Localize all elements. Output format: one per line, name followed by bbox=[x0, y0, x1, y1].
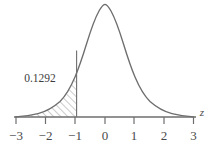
area-value-label: 0.1292 bbox=[24, 72, 56, 84]
normal-density-curve bbox=[16, 4, 194, 117]
x-tick-label: 3 bbox=[190, 128, 197, 143]
x-tick-label: −3 bbox=[9, 128, 23, 143]
x-tick-label: 2 bbox=[161, 128, 168, 143]
x-axis-tick-labels: −3 −2 −1 0 1 2 3 bbox=[9, 128, 197, 143]
x-tick-label: −2 bbox=[39, 128, 53, 143]
x-axis-ticks bbox=[16, 117, 194, 124]
x-tick-label: −1 bbox=[68, 128, 82, 143]
normal-distribution-figure: −3 −2 −1 0 1 2 3 z 0.1292 bbox=[0, 0, 215, 145]
chart-canvas: −3 −2 −1 0 1 2 3 z 0.1292 bbox=[0, 0, 215, 145]
x-tick-label: 1 bbox=[131, 128, 138, 143]
x-tick-label: 0 bbox=[102, 128, 109, 143]
axis-variable-label-z: z bbox=[199, 106, 205, 118]
